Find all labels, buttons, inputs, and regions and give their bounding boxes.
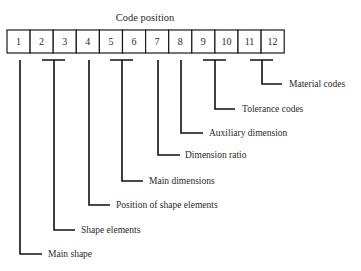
leader-material-codes bbox=[250, 60, 282, 84]
code-cell-12: 12 bbox=[261, 30, 284, 53]
label-position-of-shape-elements: Position of shape elements bbox=[116, 200, 218, 210]
svg-text:6: 6 bbox=[132, 36, 137, 47]
code-cell-6: 6 bbox=[123, 30, 146, 53]
leader-main-dimensions bbox=[110, 60, 143, 181]
diagram-title: Code position bbox=[116, 12, 175, 23]
label-tolerance-codes: Tolerance codes bbox=[242, 104, 304, 114]
code-cell-8: 8 bbox=[169, 30, 192, 53]
label-dimension-ratio: Dimension ratio bbox=[185, 150, 247, 160]
svg-text:11: 11 bbox=[245, 36, 255, 47]
code-position-diagram: Code position 1 2 3 4 5 6 7 bbox=[0, 0, 361, 271]
label-shape-elements: Shape elements bbox=[81, 225, 141, 235]
leader-auxiliary-dimension bbox=[181, 60, 203, 133]
leader-main-shape bbox=[20, 60, 42, 254]
code-cell-1: 1 bbox=[7, 30, 30, 53]
label-main-dimensions: Main dimensions bbox=[149, 176, 215, 186]
leader-dimension-ratio bbox=[158, 60, 180, 155]
svg-text:4: 4 bbox=[85, 36, 90, 47]
svg-text:2: 2 bbox=[39, 36, 44, 47]
leader-shape-elements bbox=[42, 60, 75, 230]
leader-tolerance-codes bbox=[203, 60, 235, 109]
leader-position-of-shape-elements bbox=[89, 60, 110, 205]
code-cell-3: 3 bbox=[53, 30, 76, 53]
position-labels: Material codes Tolerance codes Auxiliary… bbox=[48, 79, 345, 259]
code-cell-9: 9 bbox=[192, 30, 215, 53]
svg-text:3: 3 bbox=[62, 36, 67, 47]
code-cell-4: 4 bbox=[76, 30, 99, 53]
svg-text:9: 9 bbox=[201, 36, 206, 47]
code-position-row: 1 2 3 4 5 6 7 8 bbox=[7, 30, 284, 53]
label-material-codes: Material codes bbox=[289, 79, 345, 89]
code-cell-7: 7 bbox=[146, 30, 169, 53]
svg-text:1: 1 bbox=[16, 36, 21, 47]
code-cell-11: 11 bbox=[238, 30, 261, 53]
svg-text:5: 5 bbox=[108, 36, 113, 47]
svg-text:12: 12 bbox=[268, 36, 278, 47]
code-cell-2: 2 bbox=[30, 30, 53, 53]
label-main-shape: Main shape bbox=[48, 249, 92, 259]
label-auxiliary-dimension: Auxiliary dimension bbox=[209, 128, 288, 138]
code-cell-5: 5 bbox=[99, 30, 122, 53]
svg-text:8: 8 bbox=[178, 36, 183, 47]
code-cell-10: 10 bbox=[215, 30, 238, 53]
svg-text:10: 10 bbox=[221, 36, 231, 47]
svg-text:7: 7 bbox=[155, 36, 160, 47]
